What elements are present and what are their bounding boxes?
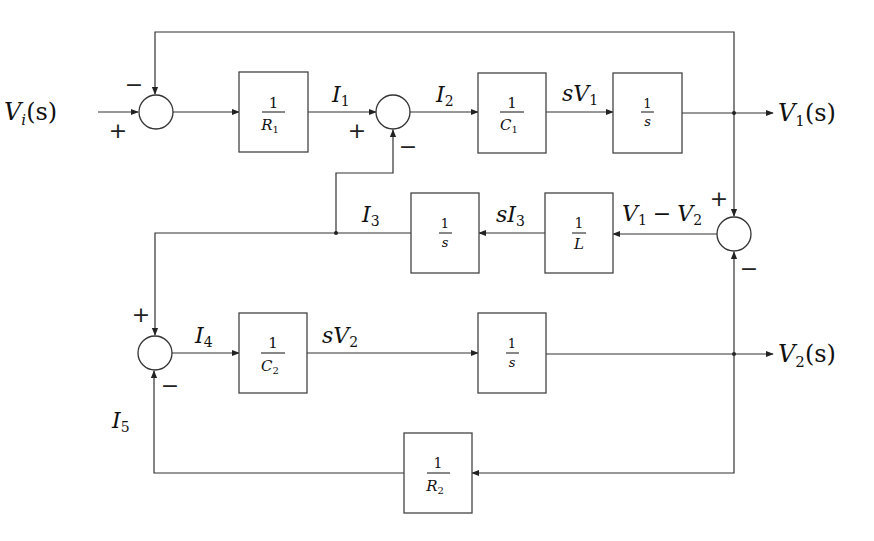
- signal-label-i5: I5: [111, 408, 130, 435]
- summing-junction-4: [138, 336, 172, 370]
- block-1-over-r1: 1 R1: [239, 72, 308, 152]
- block-denominator: C: [500, 116, 512, 134]
- signal-label-i1: I1: [331, 82, 350, 109]
- block-numerator: 1: [441, 216, 449, 231]
- signal-label-si3: sI3: [496, 202, 525, 229]
- block-1-over-l: 1 L: [545, 193, 613, 273]
- sign-sum3-top: +: [710, 186, 728, 211]
- sign-sum2-bottom: −: [399, 134, 417, 159]
- block-1-over-c1: 1 C1: [478, 73, 546, 153]
- block-denominator: L: [573, 235, 584, 253]
- block-denominator: s: [509, 355, 516, 370]
- output-label-v1: V1(s): [778, 99, 836, 130]
- block-integrator-i3: 1 s: [411, 193, 479, 273]
- block-denominator: s: [644, 114, 651, 129]
- summing-junction-1: [139, 95, 173, 129]
- signal-label-i4: I4: [194, 323, 213, 350]
- signal-label-sv2: sV2: [322, 323, 358, 350]
- input-label-vi: Vi(s): [4, 98, 57, 129]
- block-1-over-c2: 1 C2: [239, 313, 307, 393]
- block-numerator: 1: [268, 334, 278, 352]
- block-integrator-v2: 1 s: [478, 313, 546, 393]
- sign-sum1-left: +: [109, 118, 127, 143]
- block-numerator: 1: [269, 94, 279, 112]
- signal-label-v1-minus-v2: V1−V2: [622, 201, 702, 228]
- block-integrator-v1: 1 s: [613, 73, 682, 153]
- block-numerator: 1: [434, 455, 443, 471]
- block-1-over-r2: 1 R2: [404, 433, 472, 513]
- sign-sum4-top: +: [132, 302, 150, 327]
- block-denominator: R: [260, 116, 272, 134]
- block-denominator: R: [425, 477, 437, 495]
- block-diagram: − + + − + − + − 1 R1 1 C1 1 s 1 L 1 s: [0, 0, 874, 541]
- sign-sum4-bottom: −: [161, 373, 179, 398]
- junction-dot-i3: [334, 231, 338, 235]
- signal-label-i3: I3: [361, 202, 380, 229]
- signal-label-i2: I2: [435, 82, 454, 109]
- block-denominator: C: [261, 357, 273, 375]
- summing-junction-3: [717, 217, 751, 251]
- block-numerator: 1: [507, 94, 517, 112]
- summing-junction-2: [376, 95, 410, 129]
- block-numerator: 1: [643, 96, 651, 111]
- sign-sum2-left: +: [348, 118, 366, 143]
- sign-sum1-top: −: [125, 72, 143, 97]
- output-label-v2: V2(s): [778, 340, 836, 371]
- block-numerator: 1: [508, 336, 516, 351]
- block-denominator: s: [442, 235, 449, 250]
- sign-sum3-bottom: −: [740, 256, 758, 281]
- junction-dot-v1: [732, 111, 736, 115]
- signal-label-sv1: sV1: [562, 81, 598, 108]
- block-numerator: 1: [575, 215, 584, 231]
